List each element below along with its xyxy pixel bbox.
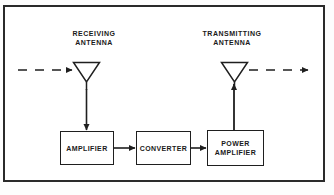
block-converter: CONVERTER: [136, 131, 191, 165]
transmitting-antenna-symbol: [222, 63, 248, 91]
block-converter-label: CONVERTER: [140, 144, 188, 153]
block-amplifier: AMPLIFIER: [60, 131, 114, 165]
block-power-amplifier: POWER AMPLIFIER: [207, 130, 264, 166]
block-amplifier-label: AMPLIFIER: [66, 144, 107, 153]
diagram-canvas: RECEIVING ANTENNA TRANSMITTING ANTENNA A…: [0, 0, 334, 195]
transmitting-antenna-label: TRANSMITTING ANTENNA: [180, 29, 284, 47]
receiving-antenna-label: RECEIVING ANTENNA: [42, 29, 146, 47]
block-power-amplifier-label: POWER AMPLIFIER: [215, 139, 256, 157]
receiving-antenna-symbol: [74, 63, 100, 91]
